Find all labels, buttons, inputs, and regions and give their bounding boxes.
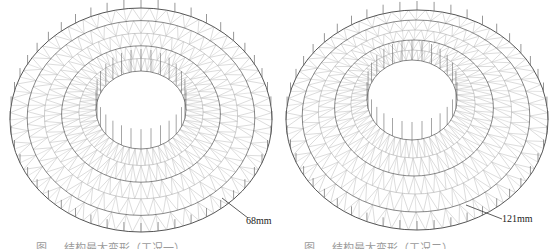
figure-left-displacement-model: 68mm 图 — 结构最大变形（工况一） xyxy=(0,0,280,249)
lattice-roof-wireframe-left xyxy=(0,0,280,236)
figure-caption-right: 图 — 结构最大变形（工况二） xyxy=(304,240,453,249)
lattice-roof-wireframe-right xyxy=(280,0,560,236)
figure-right-displacement-model: 121mm 图 — 结构最大变形（工况二） xyxy=(280,0,560,249)
max-displacement-label-right: 121mm xyxy=(502,213,533,224)
max-displacement-label-left: 68mm xyxy=(246,215,272,226)
figure-caption-left: 图 — 结构最大变形（工况一） xyxy=(36,240,185,249)
